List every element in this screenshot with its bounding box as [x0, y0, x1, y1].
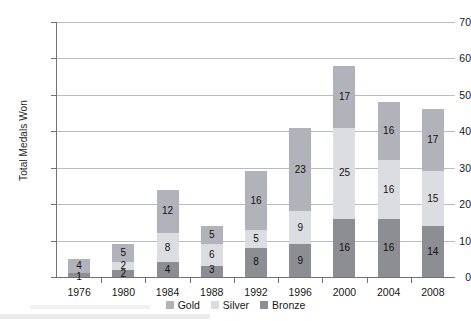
bar-value-label: 6: [209, 250, 215, 260]
bar-segment-bronze[interactable]: 1: [68, 273, 90, 277]
bar-segment-bronze[interactable]: 8: [245, 248, 267, 277]
x-tick-label: 1984: [143, 286, 193, 298]
legend-item-gold[interactable]: Gold: [166, 299, 200, 311]
legend-label: Silver: [223, 299, 249, 311]
bar-column: 172516: [333, 66, 355, 277]
bar-column: 161616: [378, 102, 400, 277]
x-tick-mark: [190, 278, 191, 283]
bar-segment-silver[interactable]: 5: [245, 230, 267, 248]
bar-value-label: 4: [165, 265, 171, 275]
plot-area: 41522128456316582399172516161616171514: [57, 22, 455, 277]
bar-group[interactable]: 1284: [157, 22, 179, 277]
bar-value-label: 5: [253, 234, 259, 244]
stacked-bar-chart: Total Medals Won 010203040506070 4152212…: [0, 0, 471, 321]
legend-label: Bronze: [272, 299, 305, 311]
bar-column: 522: [112, 244, 134, 277]
bar-value-label: 12: [162, 206, 173, 216]
x-tick-label: 1988: [187, 286, 237, 298]
bar-column: 1284: [157, 190, 179, 277]
bar-value-label: 15: [427, 194, 438, 204]
bar-value-label: 9: [297, 256, 303, 266]
legend-swatch-icon: [260, 301, 268, 309]
bar-segment-bronze[interactable]: 14: [422, 226, 444, 277]
bar-value-label: 3: [209, 265, 215, 275]
bar-value-label: 1: [76, 272, 82, 282]
bar-group[interactable]: 161616: [378, 22, 400, 277]
bar-segment-gold[interactable]: 17: [333, 66, 355, 128]
bar-segment-silver[interactable]: 16: [378, 160, 400, 218]
bar-segment-bronze[interactable]: 9: [289, 244, 311, 277]
bar-segment-silver[interactable]: 9: [289, 211, 311, 244]
bar-value-label: 17: [339, 92, 350, 102]
scan-artifact: [30, 305, 150, 309]
bar-segment-gold[interactable]: 16: [245, 171, 267, 229]
bar-value-label: 16: [383, 243, 394, 253]
bar-value-label: 16: [383, 185, 394, 195]
scan-artifact: [0, 314, 210, 319]
x-tick-mark: [145, 278, 146, 283]
bar-segment-bronze[interactable]: 16: [378, 219, 400, 277]
bar-segment-bronze[interactable]: 2: [112, 270, 134, 277]
bar-group[interactable]: 41: [68, 22, 90, 277]
x-tick-label: 2004: [364, 286, 414, 298]
bar-value-label: 8: [253, 257, 259, 267]
x-tick-label: 1996: [275, 286, 325, 298]
bar-value-label: 23: [295, 165, 306, 175]
legend-item-bronze[interactable]: Bronze: [260, 299, 305, 311]
bar-value-label: 8: [165, 243, 171, 253]
x-tick-mark: [322, 278, 323, 283]
bar-value-label: 5: [121, 248, 127, 258]
bar-value-label: 14: [427, 247, 438, 257]
bar-segment-gold[interactable]: 16: [378, 102, 400, 160]
y-axis-title: Total Medals Won: [18, 81, 29, 201]
bar-value-label: 16: [250, 196, 261, 206]
bar-value-label: 4: [76, 261, 82, 271]
bar-segment-silver[interactable]: 6: [201, 244, 223, 266]
legend-item-silver[interactable]: Silver: [211, 299, 249, 311]
bar-segment-gold[interactable]: 12: [157, 190, 179, 234]
bar-column: 2399: [289, 128, 311, 277]
x-tick-mark: [101, 278, 102, 283]
bar-value-label: 5: [209, 230, 215, 240]
legend-swatch-icon: [166, 301, 174, 309]
bar-value-label: 17: [427, 135, 438, 145]
bar-value-label: 16: [383, 126, 394, 136]
bar-group[interactable]: 2399: [289, 22, 311, 277]
bar-group[interactable]: 522: [112, 22, 134, 277]
bar-segment-silver[interactable]: 8: [157, 233, 179, 262]
bar-group[interactable]: 563: [201, 22, 223, 277]
bar-segment-bronze[interactable]: 3: [201, 266, 223, 277]
x-tick-label: 1976: [54, 286, 104, 298]
bar-segment-gold[interactable]: 17: [422, 109, 444, 171]
bar-segment-bronze[interactable]: 16: [333, 219, 355, 277]
x-tick-mark: [367, 278, 368, 283]
x-tick-label: 2000: [319, 286, 369, 298]
bar-group[interactable]: 1658: [245, 22, 267, 277]
x-tick-mark: [278, 278, 279, 283]
bar-segment-gold[interactable]: 23: [289, 128, 311, 212]
bar-value-label: 16: [339, 243, 350, 253]
x-tick-label: 1980: [98, 286, 148, 298]
bar-column: 41: [68, 259, 90, 277]
bar-segment-silver[interactable]: 15: [422, 171, 444, 226]
x-tick-mark: [411, 278, 412, 283]
x-tick-mark: [234, 278, 235, 283]
bar-column: 171514: [422, 109, 444, 277]
legend-swatch-icon: [211, 301, 219, 309]
x-tick-label: 2008: [408, 286, 458, 298]
x-tick-label: 1992: [231, 286, 281, 298]
bar-group[interactable]: 171514: [422, 22, 444, 277]
bar-segment-silver[interactable]: 25: [333, 128, 355, 219]
legend-label: Gold: [178, 299, 200, 311]
bar-value-label: 9: [297, 223, 303, 233]
gridline: [57, 277, 455, 278]
bar-group[interactable]: 172516: [333, 22, 355, 277]
bar-value-label: 25: [339, 168, 350, 178]
bar-column: 563: [201, 226, 223, 277]
bar-segment-bronze[interactable]: 4: [157, 262, 179, 277]
bar-column: 1658: [245, 171, 267, 277]
bar-value-label: 2: [121, 269, 127, 279]
bar-segment-gold[interactable]: 5: [201, 226, 223, 244]
